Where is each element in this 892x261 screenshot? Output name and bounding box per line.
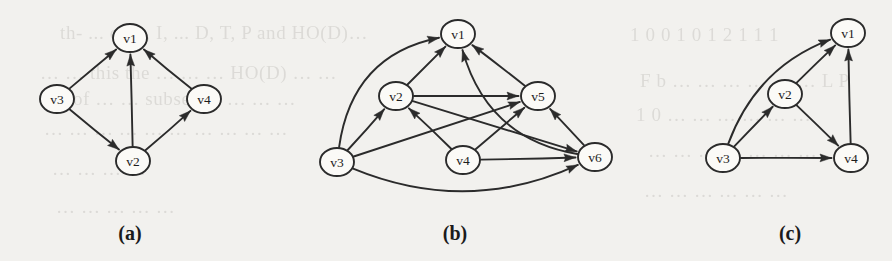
node-label-v4: v4 [844,151,858,166]
graph-a-edges [70,49,192,150]
node-v1[interactable]: v1 [831,19,865,47]
node-v2[interactable]: v2 [768,80,802,108]
caption-graph-c: (c) [779,222,801,245]
arrowhead-v4-to-v6 [564,154,576,162]
node-label-v3: v3 [330,155,344,170]
edge-v4-to-v1 [848,50,850,144]
graph-a-nodes: v1v3v4v2 [40,24,221,175]
node-v3[interactable]: v3 [320,148,354,176]
graph-c: v1v2v3v4 [706,19,868,172]
arrowhead-v2-to-v1 [127,55,135,67]
node-label-v4: v4 [456,153,470,168]
node-v2[interactable]: v2 [116,147,150,175]
node-v4[interactable]: v4 [834,144,868,172]
node-v6[interactable]: v6 [578,143,612,171]
node-label-v3: v3 [716,151,730,166]
edge-v2-to-v1 [130,55,132,147]
edge-v4-to-v6 [481,157,576,159]
node-label-v6: v6 [588,150,602,165]
node-v3[interactable]: v3 [706,144,740,172]
graph-a: v1v3v4v2 [40,24,221,175]
node-label-v2: v2 [126,154,140,169]
node-label-v2: v2 [778,87,792,102]
node-v2[interactable]: v2 [379,82,413,110]
edge-v3-to-v5 [354,102,520,157]
node-v4[interactable]: v4 [187,85,221,113]
node-label-v2: v2 [389,89,403,104]
node-v4[interactable]: v4 [446,146,480,174]
node-v3[interactable]: v3 [40,85,74,113]
edge-v2-to-v6 [413,101,577,151]
arrowhead-v4-to-v1 [845,50,853,62]
caption-graph-b: (b) [443,222,467,245]
node-label-v1: v1 [841,26,855,41]
graph-c-nodes: v1v2v3v4 [706,19,868,172]
arrowhead-v2-to-v5 [507,92,519,100]
figure-root: th- ... of B, I, ... D, T, P and HO(D)…1… [0,0,892,261]
node-v1[interactable]: v1 [113,24,147,52]
graph-b: v1v2v5v3v4v6 [320,20,612,191]
node-label-v5: v5 [531,89,545,104]
arrowhead-v3-to-v4 [820,154,832,162]
node-label-v3: v3 [50,92,64,107]
node-label-v1: v1 [451,27,465,42]
caption-graph-a: (a) [118,222,141,245]
node-label-v4: v4 [197,92,211,107]
node-v5[interactable]: v5 [521,82,555,110]
node-v1[interactable]: v1 [441,20,475,48]
node-label-v1: v1 [123,31,137,46]
